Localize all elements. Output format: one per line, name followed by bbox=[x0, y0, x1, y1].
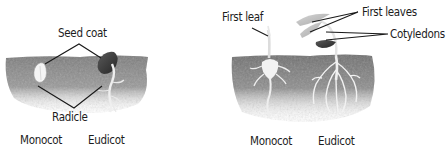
eudicot-label-left: Eudicot bbox=[88, 134, 125, 147]
radicle-label: Radicle bbox=[52, 111, 88, 124]
monocot-label-left: Monocot bbox=[20, 134, 62, 147]
eudicot-label-right: Eudicot bbox=[318, 135, 355, 148]
first-leaf-leader-line bbox=[252, 28, 268, 36]
soil-left bbox=[6, 56, 148, 114]
soil-right bbox=[232, 55, 375, 123]
cotyledons-label: Cotyledons bbox=[390, 28, 445, 41]
germination-figure: Seed coat Radicle Monocot Eudicot First … bbox=[0, 0, 446, 154]
first-leaves-label: First leaves bbox=[362, 6, 417, 19]
monocot-label-right: Monocot bbox=[250, 135, 292, 148]
first-leaf-label: First leaf bbox=[222, 11, 263, 24]
seed-coat-label: Seed coat bbox=[58, 27, 107, 40]
